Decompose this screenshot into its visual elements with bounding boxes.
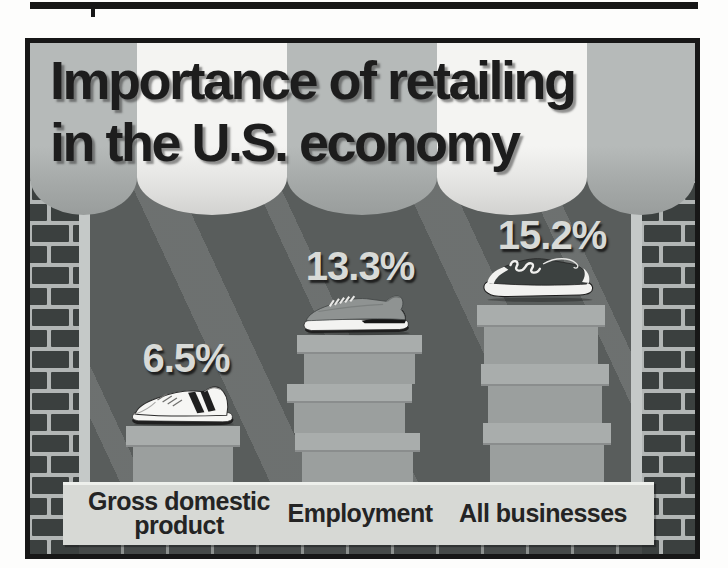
brick — [642, 288, 659, 305]
category-label-all-businesses: All businesses — [427, 501, 659, 525]
shoebox-lid — [297, 335, 422, 354]
awning-stripe — [587, 43, 695, 215]
shoebox — [126, 426, 240, 482]
brick — [644, 351, 681, 368]
shoebox-body — [490, 445, 604, 482]
shoebox — [481, 364, 609, 423]
chart-title-line2: in the U.S. economy — [50, 111, 575, 173]
gray-runner-shoe-icon — [301, 283, 419, 336]
brick — [644, 393, 681, 410]
shoebox-stack-all-businesses — [477, 305, 605, 482]
chart-title-line1: Importance of retailing — [50, 49, 575, 111]
shoebox — [477, 305, 605, 364]
brick — [663, 414, 695, 431]
shoebox-body — [294, 403, 405, 433]
shoebox-body — [304, 354, 415, 384]
retailing-infographic: Importance of retailing in the U.S. econ… — [25, 38, 700, 559]
shoebox — [287, 384, 412, 433]
brick — [30, 456, 47, 473]
scanned-page: Importance of retailing in the U.S. econ… — [0, 0, 728, 568]
brick — [685, 435, 695, 452]
brick — [663, 330, 695, 347]
brick — [32, 225, 69, 242]
brick — [663, 372, 695, 389]
brick — [642, 246, 659, 263]
shoebox — [483, 423, 611, 482]
brick — [30, 288, 47, 305]
brick — [663, 246, 695, 263]
brick — [32, 351, 69, 368]
shoebox-body — [488, 386, 602, 423]
shoebox-body — [133, 447, 233, 482]
page-top-rule — [30, 2, 698, 9]
brick — [685, 267, 695, 284]
shoebox-stack-employment — [293, 335, 418, 482]
brick — [30, 330, 47, 347]
brick — [30, 246, 47, 263]
page-top-rule-tick — [91, 9, 95, 17]
brick — [663, 540, 695, 554]
brick — [51, 372, 79, 389]
shoebox-lid — [295, 433, 420, 452]
brick — [642, 330, 659, 347]
brick — [663, 288, 695, 305]
brick — [51, 456, 79, 473]
shoebox-lid — [287, 384, 412, 403]
brick — [32, 267, 69, 284]
brick — [685, 309, 695, 326]
brick — [685, 351, 695, 368]
shoebox-stack-gdp — [126, 426, 240, 482]
chart-title: Importance of retailing in the U.S. econ… — [50, 49, 575, 173]
shoebox-body — [302, 452, 413, 482]
brick — [685, 477, 695, 494]
brick — [663, 456, 695, 473]
brick — [51, 414, 79, 431]
shoebox-lid — [483, 423, 611, 445]
brick — [644, 309, 681, 326]
brick — [30, 414, 47, 431]
brick — [685, 225, 695, 242]
brick — [644, 435, 681, 452]
brick — [663, 498, 695, 515]
brick — [51, 246, 79, 263]
brick — [644, 267, 681, 284]
category-shelf: Gross domestic product Employment All bu… — [63, 482, 654, 545]
brick — [685, 393, 695, 410]
brick — [32, 393, 69, 410]
brick — [30, 372, 47, 389]
brick — [642, 456, 659, 473]
brick — [642, 372, 659, 389]
shoebox-body — [484, 327, 598, 364]
white-sneaker-icon — [128, 375, 240, 427]
shoebox — [295, 433, 420, 482]
brick — [32, 309, 69, 326]
brick — [30, 540, 47, 554]
brick — [51, 288, 79, 305]
brick — [30, 498, 47, 515]
dark-sneaker-icon — [481, 241, 602, 307]
brick — [685, 519, 695, 536]
brick — [642, 414, 659, 431]
shoebox-lid — [477, 305, 605, 327]
shoebox-lid — [481, 364, 609, 386]
shoebox — [297, 335, 422, 384]
brick — [51, 330, 79, 347]
brick — [32, 435, 69, 452]
shoebox-lid — [126, 426, 240, 447]
brick — [644, 225, 681, 242]
